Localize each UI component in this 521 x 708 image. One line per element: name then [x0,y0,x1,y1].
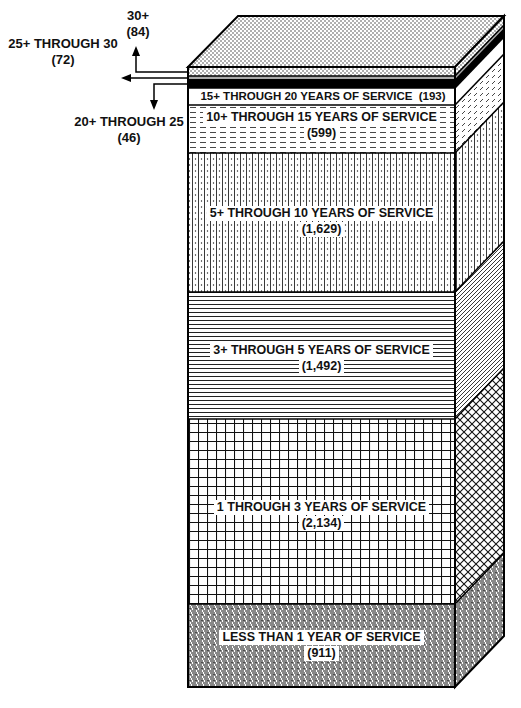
label-10-15: 10+ THROUGH 15 YEARS OF SERVICE (599) [188,110,455,141]
label-25-30: 25+ THROUGH 30 (72) [3,36,123,68]
layer-30-plus [188,67,455,76]
arrow-20-25 [154,84,188,102]
layer-20-25 [188,79,455,88]
label-30-plus: 30+ (84) [118,8,158,40]
label-lt-1: LESS THAN 1 YEAR OF SERVICE (911) [188,630,455,661]
label-5-10: 5+ THROUGH 10 YEARS OF SERVICE (1,629) [188,206,455,237]
label-1-3: 1 THROUGH 3 YEARS OF SERVICE (2,134) [188,500,455,531]
label-20-25: 20+ THROUGH 25 (46) [70,114,188,146]
label-3-5: 3+ THROUGH 5 YEARS OF SERVICE (1,492) [188,343,455,374]
label-15-20: 15+ THROUGH 20 YEARS OF SERVICE (193) [188,89,455,104]
arrow-30-plus [136,54,188,72]
top-face [188,16,504,67]
